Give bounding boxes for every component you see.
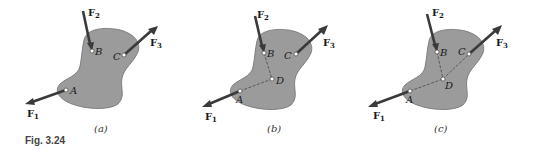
- label-f2: F2: [257, 9, 269, 22]
- label-b: B: [439, 47, 447, 58]
- label-a: A: [235, 94, 243, 105]
- caption-a: (a): [94, 123, 108, 134]
- force-f1-arrow: [368, 91, 410, 107]
- label-f1: F1: [27, 108, 39, 121]
- point-b: [262, 51, 266, 55]
- caption-b: (b): [267, 123, 281, 134]
- figure-3-24: A B C F1 F2 F3 (a) A B C D F1 F2: [0, 0, 533, 162]
- label-c: C: [113, 51, 121, 62]
- label-f3: F3: [150, 37, 162, 50]
- label-f3: F3: [323, 37, 335, 50]
- label-b: B: [94, 46, 102, 57]
- point-c: [122, 53, 126, 57]
- point-b: [90, 49, 94, 53]
- label-d: D: [444, 80, 453, 91]
- point-c: [467, 52, 471, 56]
- label-d: D: [275, 75, 284, 86]
- label-f1: F1: [373, 110, 385, 123]
- label-f1: F1: [205, 111, 217, 124]
- label-f3: F3: [496, 37, 508, 50]
- label-c: C: [458, 46, 466, 57]
- point-a: [64, 88, 68, 92]
- figure-label: Fig. 3.24: [25, 135, 65, 146]
- rigid-body: [402, 29, 483, 109]
- point-a: [238, 89, 242, 93]
- label-a: A: [405, 94, 413, 105]
- caption-c: (c): [434, 123, 448, 134]
- label-c: C: [284, 50, 292, 61]
- panel-b: A B C D F1 F2 F3 (b): [202, 9, 335, 134]
- label-a: A: [69, 85, 77, 96]
- point-c: [294, 52, 298, 56]
- label-b: B: [266, 48, 274, 59]
- panel-c: A B C D F1 F2 F3 (c): [368, 7, 508, 134]
- label-f2: F2: [432, 7, 444, 20]
- point-d: [270, 77, 274, 81]
- panel-a: A B C F1 F2 F3 (a): [25, 7, 162, 134]
- rigid-body: [57, 28, 138, 108]
- label-f2: F2: [88, 7, 100, 20]
- point-a: [408, 89, 412, 93]
- point-b: [435, 50, 439, 54]
- force-f1-arrow: [25, 90, 66, 105]
